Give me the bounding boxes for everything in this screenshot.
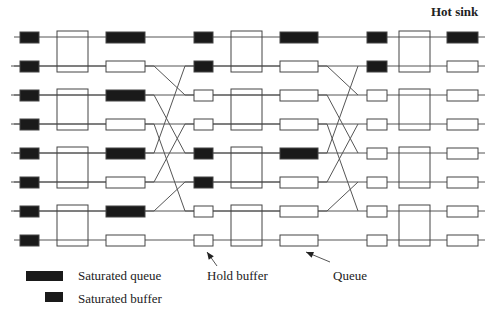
saturated-buffer: [194, 177, 213, 188]
saturated-buffer: [194, 61, 213, 72]
saturated-buffer: [20, 61, 39, 72]
hold-buffer: [194, 235, 213, 246]
saturated-queue: [280, 32, 318, 43]
hold-buffer: [367, 90, 387, 101]
hold-buffer: [367, 206, 387, 217]
shuffle-link: [154, 66, 185, 153]
saturated-queue: [280, 148, 318, 159]
saturated-queue: [106, 148, 145, 159]
queue: [447, 206, 478, 217]
queue: [106, 61, 145, 72]
queue-arrow-head-icon: [306, 252, 314, 258]
saturated-buffer: [20, 90, 39, 101]
hold-buffer-arrow-head-icon: [207, 252, 214, 260]
queue-label: Queue: [333, 268, 367, 284]
saturated-buffer: [194, 32, 213, 43]
queue: [447, 235, 478, 246]
hold-buffer: [194, 90, 213, 101]
saturated-buffer: [20, 32, 39, 43]
legend-saturated-queue-label: Saturated queue: [78, 268, 161, 284]
saturated-buffer: [20, 177, 39, 188]
queue: [447, 148, 478, 159]
shuffle-link: [327, 66, 358, 153]
queue: [447, 90, 478, 101]
hold-buffer: [367, 177, 387, 188]
legend-saturated-buffer-swatch: [45, 292, 63, 302]
queue: [447, 61, 478, 72]
hold-buffer: [367, 148, 387, 159]
saturated-buffer: [20, 148, 39, 159]
saturated-buffer: [367, 32, 387, 43]
legend-saturated-queue-swatch: [26, 271, 63, 281]
shuffle-link: [327, 124, 358, 211]
queue: [106, 119, 145, 130]
queue: [280, 235, 318, 246]
queue: [280, 206, 318, 217]
saturated-buffer: [367, 61, 387, 72]
saturated-queue: [106, 206, 145, 217]
hold-buffer-label: Hold buffer: [207, 268, 268, 284]
saturated-buffer: [20, 206, 39, 217]
queue: [447, 177, 478, 188]
saturated-buffer: [20, 235, 39, 246]
saturated-queue: [447, 32, 478, 43]
queue: [280, 119, 318, 130]
shuffle-link: [154, 124, 185, 211]
saturated-queue: [106, 32, 145, 43]
hot-sink-title: Hot sink: [431, 4, 478, 20]
queue: [106, 177, 145, 188]
hold-buffer: [194, 119, 213, 130]
queue: [280, 177, 318, 188]
hold-buffer: [367, 235, 387, 246]
hold-buffer: [194, 206, 213, 217]
queue: [447, 119, 478, 130]
queue: [106, 235, 145, 246]
legend-saturated-buffer-label: Saturated buffer: [78, 291, 162, 307]
queue: [280, 90, 318, 101]
saturated-buffer: [20, 119, 39, 130]
saturated-queue: [106, 90, 145, 101]
queue: [280, 61, 318, 72]
hold-buffer: [367, 119, 387, 130]
saturated-buffer: [194, 148, 213, 159]
